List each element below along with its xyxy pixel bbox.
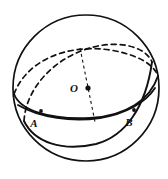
- point-b-label: B: [124, 116, 132, 128]
- point-a-dot: [39, 109, 43, 113]
- geometry-diagram-canvas: O A B: [0, 0, 168, 179]
- point-a-label: A: [29, 117, 37, 129]
- center-point-label: O: [70, 82, 78, 94]
- sphere-diagram-figure: O A B: [0, 0, 168, 179]
- center-point-dot: [85, 85, 90, 90]
- tilted-circle-front-arc-solid: [24, 62, 152, 147]
- center-axis-dashed-line: [80, 48, 95, 122]
- point-b-dot: [132, 108, 136, 112]
